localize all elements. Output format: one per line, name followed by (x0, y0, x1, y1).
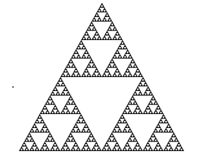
sierpinski-path (19, 3, 184, 151)
sierpinski-triangle (19, 3, 184, 151)
stray-dot (12, 86, 14, 88)
sierpinski-triangle-figure (0, 0, 197, 162)
